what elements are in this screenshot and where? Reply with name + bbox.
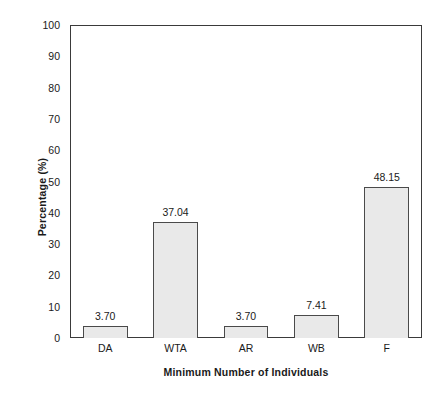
y-axis-tick-label: 50	[48, 174, 60, 190]
bar[interactable]	[153, 222, 198, 338]
y-axis-tick-label: 40	[48, 205, 60, 221]
y-axis-tick-label: 10	[48, 299, 60, 315]
bar-value-label: 3.70	[236, 310, 256, 322]
bar-group[interactable]: 7.41	[294, 25, 339, 338]
x-axis-tick-label: F	[384, 342, 390, 354]
bar-value-label: 48.15	[374, 171, 400, 183]
bar[interactable]	[224, 326, 269, 338]
bar-value-label: 3.70	[95, 310, 115, 322]
y-axis-tick-label: 70	[48, 111, 60, 127]
x-axis-tick-label: WB	[308, 342, 325, 354]
y-axis-tick-label: 90	[48, 48, 60, 64]
bar-value-label: 7.41	[306, 299, 326, 311]
bar-chart-figure: Percentage (%) 0102030405060708090100 3.…	[0, 0, 440, 394]
bars-layer: 3.7037.043.707.4148.15	[70, 25, 422, 338]
x-axis-tick-label: DA	[98, 342, 113, 354]
y-axis-tick-label: 20	[48, 267, 60, 283]
y-axis-tick-label: 60	[48, 142, 60, 158]
bar[interactable]	[364, 187, 409, 338]
y-axis-tick-label: 0	[54, 330, 60, 346]
bar[interactable]	[294, 315, 339, 338]
bar[interactable]	[83, 326, 128, 338]
x-axis-tick-label: AR	[239, 342, 254, 354]
x-axis-tick-labels: DAWTAARWBF	[70, 342, 422, 360]
x-axis-tick-label: WTA	[164, 342, 187, 354]
bar-group[interactable]: 48.15	[364, 25, 409, 338]
y-axis-tick-label: 30	[48, 236, 60, 252]
y-axis-tick-label: 80	[48, 80, 60, 96]
bar-group[interactable]: 37.04	[153, 25, 198, 338]
bar-group[interactable]: 3.70	[83, 25, 128, 338]
bar-group[interactable]: 3.70	[224, 25, 269, 338]
x-axis-title: Minimum Number of Individuals	[70, 366, 422, 378]
y-axis-tick-label: 100	[42, 17, 60, 33]
bar-value-label: 37.04	[162, 206, 188, 218]
